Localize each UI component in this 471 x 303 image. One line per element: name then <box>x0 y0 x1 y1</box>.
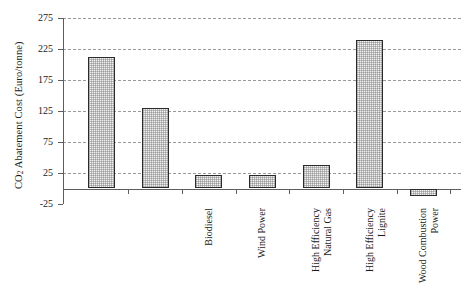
plot-area <box>63 18 461 204</box>
gridline <box>63 18 461 19</box>
y-axis-line <box>63 18 64 204</box>
bar <box>356 40 383 189</box>
y-axis-tickmark <box>58 18 63 19</box>
x-axis-tickmark <box>128 189 129 194</box>
y-axis-tickmark <box>58 111 63 112</box>
x-axis-tick-label: Wood Combustion Power <box>417 208 440 303</box>
gridline <box>63 142 461 143</box>
x-axis-tick-label: Biodiesel <box>203 208 215 303</box>
y-axis-tick-label: -25 <box>19 199 53 209</box>
x-axis-tickmark <box>289 189 290 194</box>
y-axis-tick-label: 25 <box>19 168 53 178</box>
y-axis-tick-label: 125 <box>19 106 53 116</box>
x-axis-tick-label: Wind Power <box>256 208 268 303</box>
y-axis-tick-label: 225 <box>19 44 53 54</box>
bar <box>142 108 169 189</box>
x-axis-tickmark <box>343 189 344 194</box>
gridline <box>63 49 461 50</box>
bar <box>88 57 115 188</box>
bar <box>249 175 276 189</box>
x-axis-line <box>63 189 461 190</box>
gridline <box>63 173 461 174</box>
x-axis-tickmark <box>397 189 398 194</box>
y-axis-tick-label: 75 <box>19 137 53 147</box>
x-axis-tickmark <box>182 189 183 194</box>
y-axis-tickmark <box>58 80 63 81</box>
y-axis-tickmark <box>58 142 63 143</box>
co2-abatement-cost-bar-chart: CO2 Abatement Cost (Euro/tonne) 27522517… <box>0 0 471 303</box>
gridline <box>63 80 461 81</box>
bar <box>410 189 437 196</box>
bar <box>303 165 330 189</box>
y-axis-tick-label: 275 <box>19 13 53 23</box>
bar <box>195 175 222 189</box>
y-axis-tickmark <box>58 204 63 205</box>
y-axis-tickmark <box>58 173 63 174</box>
x-axis-tick-label: High Efficiency Natural Gas <box>310 208 333 303</box>
y-axis-tick-label: 175 <box>19 75 53 85</box>
x-axis-tickmark <box>450 189 451 194</box>
gridline <box>63 111 461 112</box>
x-axis-tickmark <box>236 189 237 194</box>
x-axis-tick-label: High Efficiency Lignite <box>364 208 387 303</box>
y-axis-tickmark <box>58 49 63 50</box>
